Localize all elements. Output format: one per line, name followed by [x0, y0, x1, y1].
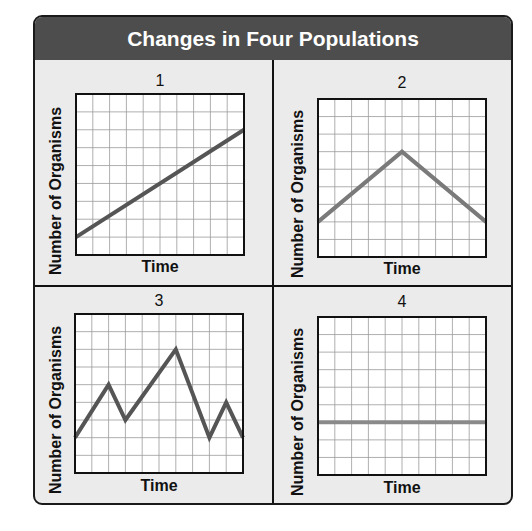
x-axis-label: Time — [318, 479, 486, 497]
y-axis-label: Number of Organisms — [47, 325, 65, 493]
line-plot-4 — [318, 317, 486, 475]
chart-title: Changes in Four Populations — [35, 17, 511, 60]
line-plot-1 — [76, 94, 244, 255]
panel-number: 2 — [318, 74, 486, 92]
horizontal-divider — [35, 285, 511, 287]
y-axis-label: Number of Organisms — [289, 110, 307, 278]
x-axis-label: Time — [76, 258, 244, 276]
panel-number: 3 — [75, 292, 243, 310]
vertical-divider — [272, 60, 274, 505]
x-axis-label: Time — [75, 477, 243, 495]
y-axis-label: Number of Organisms — [47, 106, 65, 274]
panel-number: 4 — [318, 293, 486, 311]
line-plot-2 — [318, 99, 486, 257]
line-plot-3 — [75, 314, 243, 473]
x-axis-label: Time — [318, 260, 486, 278]
panel-number: 1 — [76, 72, 244, 90]
y-axis-label: Number of Organisms — [289, 328, 307, 496]
